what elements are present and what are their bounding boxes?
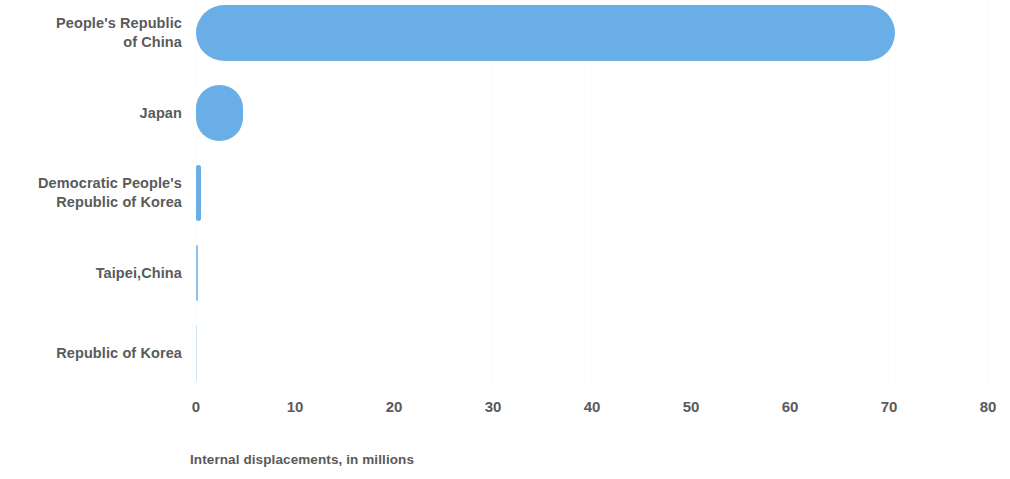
category-label-taipei-line1: Taipei,China — [0, 263, 182, 282]
x-tick-20: 20 — [386, 398, 403, 415]
category-label-korea-line1: Republic of Korea — [0, 343, 182, 362]
category-label-china-line1: People's Republic — [0, 14, 182, 33]
bar-row-china: People's Republic of China — [0, 0, 1010, 71]
bar-japan[interactable] — [196, 85, 243, 141]
x-tick-80: 80 — [980, 398, 997, 415]
x-tick-30: 30 — [485, 398, 502, 415]
bar-dprk[interactable] — [196, 165, 201, 221]
bar-row-dprk: Democratic People's Republic of Korea — [0, 154, 1010, 231]
x-tick-50: 50 — [683, 398, 700, 415]
category-label-korea: Republic of Korea — [0, 343, 182, 362]
category-label-dprk-line2: Republic of Korea — [0, 193, 182, 212]
x-tick-10: 10 — [287, 398, 304, 415]
category-label-taipei: Taipei,China — [0, 263, 182, 282]
bar-row-korea: Republic of Korea — [0, 314, 1010, 391]
category-label-china: People's Republic of China — [0, 14, 182, 52]
bar-korea[interactable] — [196, 325, 197, 381]
bar-row-japan: Japan — [0, 74, 1010, 151]
x-tick-70: 70 — [881, 398, 898, 415]
category-label-china-line2: of China — [0, 33, 182, 52]
bar-china[interactable] — [196, 5, 895, 61]
category-label-dprk: Democratic People's Republic of Korea — [0, 174, 182, 212]
x-tick-0: 0 — [192, 398, 200, 415]
x-axis-title: Internal displacements, in millions — [190, 452, 414, 467]
bar-track-china — [196, 5, 895, 61]
bar-track-taipei — [196, 245, 198, 301]
category-label-japan-line1: Japan — [0, 103, 182, 122]
bar-track-japan — [196, 85, 243, 141]
bar-row-taipei: Taipei,China — [0, 234, 1010, 311]
x-tick-40: 40 — [584, 398, 601, 415]
x-axis-ticks: 0 10 20 30 40 50 60 70 80 — [0, 398, 1010, 422]
category-label-japan: Japan — [0, 103, 182, 122]
bar-taipei[interactable] — [196, 245, 198, 301]
bar-track-dprk — [196, 165, 201, 221]
bar-track-korea — [196, 325, 197, 381]
category-label-dprk-line1: Democratic People's — [0, 174, 182, 193]
x-tick-60: 60 — [782, 398, 799, 415]
bar-chart: People's Republic of China Japan Democra… — [0, 0, 1010, 479]
